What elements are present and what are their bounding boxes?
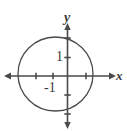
x-axis-label: x [116, 69, 123, 82]
y-tick-label-one: 1 [56, 50, 63, 64]
y-axis-label: y [64, 11, 70, 25]
x-axis-right-arrow-icon [109, 73, 116, 80]
x-tick-label-negative-one: -1 [44, 81, 56, 95]
math-figure: y x 1 -1 [0, 0, 127, 131]
y-axis-bottom-arrow-icon [64, 122, 70, 129]
x-axis-left-arrow-icon [4, 73, 11, 80]
